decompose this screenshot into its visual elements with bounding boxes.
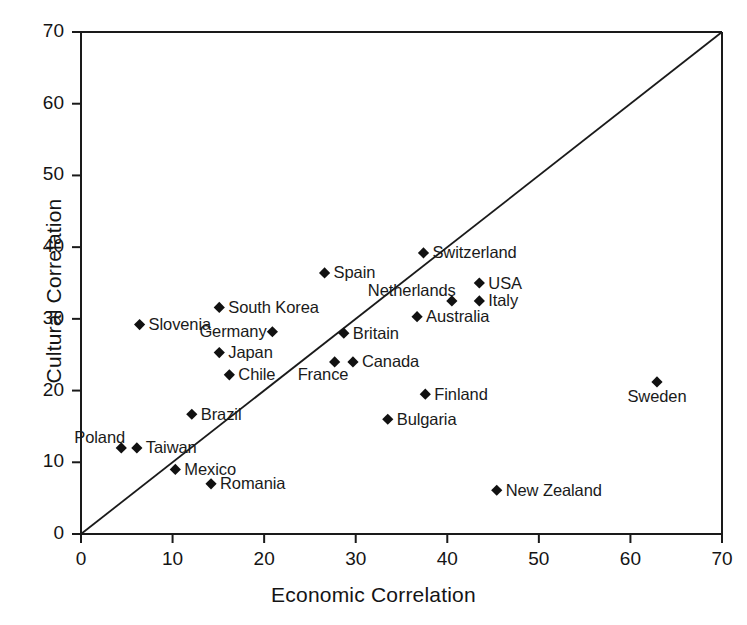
x-tick-label: 10 — [153, 548, 193, 570]
y-tick-label: 70 — [24, 20, 64, 42]
data-point-label: Chile — [238, 365, 275, 384]
data-point-marker[interactable] — [131, 442, 142, 453]
x-tick-label: 40 — [427, 548, 467, 570]
data-point-label: Netherlands — [368, 281, 456, 300]
y-tick-label: 20 — [24, 379, 64, 401]
data-point-marker[interactable] — [134, 319, 145, 330]
data-point-label: Italy — [488, 291, 518, 310]
data-point-label: Australia — [426, 307, 489, 326]
data-point-marker[interactable] — [491, 485, 502, 496]
data-point-marker[interactable] — [214, 302, 225, 313]
data-point-marker[interactable] — [418, 247, 429, 258]
data-point-label: South Korea — [228, 298, 319, 317]
data-point-label: Taiwan — [146, 438, 197, 457]
data-point-marker[interactable] — [651, 376, 662, 387]
data-point-label: USA — [488, 274, 522, 293]
data-point-label: Brazil — [201, 405, 242, 424]
x-tick-label: 20 — [244, 548, 284, 570]
y-tick-label: 10 — [24, 450, 64, 472]
y-tick-label: 40 — [24, 235, 64, 257]
data-point-marker[interactable] — [186, 409, 197, 420]
data-point-label: Romania — [220, 474, 285, 493]
data-point-label: Canada — [362, 352, 419, 371]
data-point-label: Germany — [199, 322, 266, 341]
data-point-marker[interactable] — [411, 311, 422, 322]
data-point-marker[interactable] — [420, 389, 431, 400]
data-point-label: France — [298, 365, 349, 384]
data-point-label: Switzerland — [432, 243, 516, 262]
data-point-marker[interactable] — [474, 295, 485, 306]
y-tick-label: 60 — [24, 92, 64, 114]
data-point-marker[interactable] — [267, 326, 278, 337]
data-point-label: Britain — [353, 324, 399, 343]
y-tick-label: 50 — [24, 163, 64, 185]
data-point-label: Japan — [228, 343, 272, 362]
x-tick-label: 30 — [336, 548, 376, 570]
scatter-plot-figure: Economic Correlation Cultural Correlatio… — [0, 0, 747, 625]
x-tick-label: 50 — [519, 548, 559, 570]
data-point-label: Spain — [334, 263, 376, 282]
data-point-marker[interactable] — [224, 369, 235, 380]
data-point-marker[interactable] — [347, 356, 358, 367]
data-point-marker[interactable] — [382, 414, 393, 425]
data-point-marker[interactable] — [170, 464, 181, 475]
data-point-label: Sweden — [627, 387, 686, 406]
y-tick-label: 30 — [24, 307, 64, 329]
x-tick-label: 60 — [610, 548, 650, 570]
data-point-marker[interactable] — [474, 277, 485, 288]
x-axis-title: Economic Correlation — [0, 583, 747, 607]
data-point-marker[interactable] — [214, 347, 225, 358]
data-point-label: New Zealand — [506, 481, 602, 500]
data-point-marker[interactable] — [319, 267, 330, 278]
data-point-marker[interactable] — [205, 478, 216, 489]
x-tick-label: 70 — [702, 548, 742, 570]
y-tick-label: 0 — [24, 522, 64, 544]
data-point-marker[interactable] — [338, 328, 349, 339]
data-point-label: Bulgaria — [397, 410, 457, 429]
x-tick-label: 0 — [61, 548, 101, 570]
data-point-label: Poland — [74, 428, 125, 447]
plot-canvas — [0, 0, 747, 625]
data-point-label: Finland — [434, 385, 487, 404]
